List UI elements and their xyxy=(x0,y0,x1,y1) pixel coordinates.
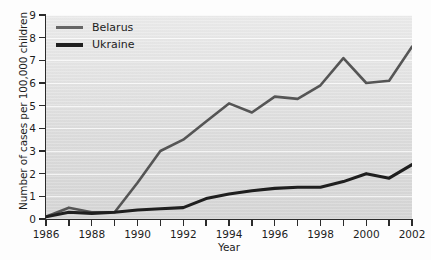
x-tick-label: 1998 xyxy=(297,228,345,240)
x-tick xyxy=(366,220,367,226)
x-tick xyxy=(320,220,321,226)
y-tick xyxy=(39,173,46,174)
y-axis-line xyxy=(45,14,46,220)
x-tick xyxy=(137,220,138,226)
y-tick-label: 2 xyxy=(16,169,36,179)
x-tick xyxy=(114,220,115,226)
legend-label-ukraine: Ukraine xyxy=(92,38,134,51)
y-tick-label: 6 xyxy=(16,78,36,88)
x-tick xyxy=(91,220,92,226)
x-tick xyxy=(228,220,229,226)
x-tick xyxy=(343,220,344,226)
x-tick-label: 1992 xyxy=(159,228,207,240)
y-tick xyxy=(39,128,46,129)
y-tick-label: 3 xyxy=(16,146,36,156)
y-tick-label: 1 xyxy=(16,191,36,201)
x-tick xyxy=(411,220,412,226)
x-tick xyxy=(68,220,69,226)
x-tick xyxy=(45,220,46,226)
x-axis-title: Year xyxy=(46,241,412,253)
y-tick-label: 8 xyxy=(16,33,36,43)
y-tick xyxy=(39,105,46,106)
y-tick-label: 9 xyxy=(16,10,36,20)
y-tick-label: 5 xyxy=(16,101,36,111)
x-tick xyxy=(205,220,206,226)
series-line-ukraine xyxy=(46,165,412,217)
legend-swatch-belarus xyxy=(56,26,83,30)
x-tick xyxy=(274,220,275,226)
y-tick xyxy=(39,196,46,197)
y-tick xyxy=(39,14,46,15)
y-tick-label: 4 xyxy=(16,123,36,133)
x-tick xyxy=(388,220,389,226)
y-tick xyxy=(39,60,46,61)
y-tick xyxy=(39,82,46,83)
x-tick xyxy=(297,220,298,226)
x-tick xyxy=(251,220,252,226)
legend: Belarus Ukraine xyxy=(56,19,216,53)
x-tick-label: 1996 xyxy=(251,228,299,240)
x-tick-label: 1988 xyxy=(68,228,116,240)
y-tick xyxy=(39,150,46,151)
x-tick-label: 1986 xyxy=(22,228,70,240)
legend-label-belarus: Belarus xyxy=(92,21,133,34)
x-tick xyxy=(160,220,161,226)
legend-item-belarus: Belarus xyxy=(56,19,216,36)
x-tick-label: 2002 xyxy=(388,228,431,240)
x-tick-label: 1990 xyxy=(114,228,162,240)
x-tick-label: 2000 xyxy=(342,228,390,240)
x-tick-label: 1994 xyxy=(205,228,253,240)
x-tick xyxy=(183,220,184,226)
legend-swatch-ukraine xyxy=(56,43,83,47)
y-tick-label: 0 xyxy=(16,214,36,224)
y-tick-label: 7 xyxy=(16,55,36,65)
series-line-belarus xyxy=(46,47,412,217)
thyroid-cancer-incidence-chart: Number of cases per 100,000 children 012… xyxy=(0,0,431,260)
y-tick xyxy=(39,37,46,38)
legend-item-ukraine: Ukraine xyxy=(56,36,216,53)
